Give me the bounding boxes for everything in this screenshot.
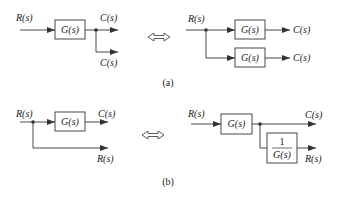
branch-line xyxy=(260,124,267,148)
g-block-label: G(s) xyxy=(61,24,79,36)
g-block-label: G(s) xyxy=(61,116,79,128)
diagram-a-left: R(s) G(s) C(s) C(s) xyxy=(15,12,118,69)
inverse-denominator: G(s) xyxy=(273,149,291,161)
equivalence-arrow-b xyxy=(142,131,164,139)
double-arrow-icon xyxy=(148,33,170,41)
diagram-b-left: R(s) G(s) C(s) R(s) xyxy=(15,108,116,165)
input-label: R(s) xyxy=(187,108,205,120)
block-diagram-canvas: R(s) G(s) C(s) C(s) R(s) G(s) C(s) G(s) … xyxy=(0,0,337,198)
g-block-top-label: G(s) xyxy=(241,24,259,36)
diagram-b-right: R(s) G(s) C(s) 1 G(s) R(s) xyxy=(187,108,323,165)
double-arrow-icon xyxy=(142,131,164,139)
equivalence-arrow-a xyxy=(148,33,170,41)
g-block-bottom-label: G(s) xyxy=(241,52,259,64)
input-label: R(s) xyxy=(187,13,205,25)
output-bottom-label: R(s) xyxy=(96,153,114,165)
caption-a: (a) xyxy=(162,77,173,89)
diagram-a-right: R(s) G(s) C(s) G(s) C(s) xyxy=(186,13,311,67)
branch-arrow xyxy=(206,30,235,58)
inverse-numerator: 1 xyxy=(280,136,285,147)
caption-b: (b) xyxy=(162,176,174,188)
g-block-label: G(s) xyxy=(228,118,246,130)
output-top-label: C(s) xyxy=(293,24,311,36)
input-label: R(s) xyxy=(15,12,33,24)
output-top-label: C(s) xyxy=(100,12,118,24)
input-label: R(s) xyxy=(15,108,33,120)
output-top-label: C(s) xyxy=(98,108,116,120)
output-bottom-label: R(s) xyxy=(304,153,322,165)
output-top-label: C(s) xyxy=(305,109,323,121)
output-arrow-bottom xyxy=(96,30,118,52)
output-bottom-label: C(s) xyxy=(100,57,118,69)
output-bottom-label: C(s) xyxy=(293,52,311,64)
